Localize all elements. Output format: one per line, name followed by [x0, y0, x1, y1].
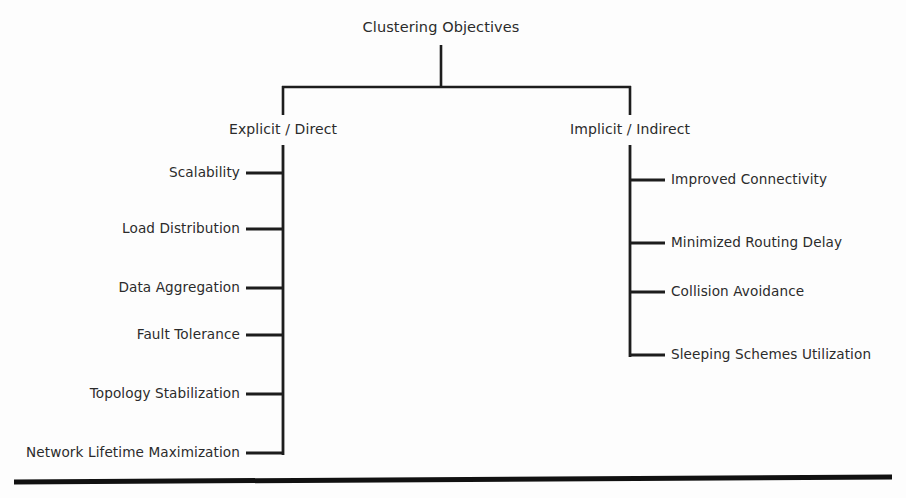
- leaf-label-scalability: Scalability: [0, 166, 240, 180]
- implicit-branch-lines: [629, 145, 665, 357]
- explicit-branch-lines: [246, 145, 284, 455]
- leaf-label-load-distribution: Load Distribution: [0, 222, 240, 236]
- leaf-label-minimized-routing-delay: Minimized Routing Delay: [671, 236, 842, 250]
- leaf-label-sleeping-schemes-utilization: Sleeping Schemes Utilization: [671, 348, 871, 362]
- leaf-label-collision-avoidance: Collision Avoidance: [671, 285, 804, 299]
- branch-label-implicit: Implicit / Indirect: [530, 122, 730, 136]
- leaf-label-network-lifetime-maximization: Network Lifetime Maximization: [0, 446, 240, 460]
- root-connector-group: [282, 45, 631, 115]
- clustering-objectives-diagram: Clustering Objectives Explicit / Direct …: [0, 0, 906, 498]
- root-node-label: Clustering Objectives: [0, 20, 882, 35]
- footer-horizontal-rule: [14, 477, 892, 482]
- leaf-label-fault-tolerance: Fault Tolerance: [0, 328, 240, 342]
- branch-label-explicit: Explicit / Direct: [183, 122, 383, 136]
- leaf-label-topology-stabilization: Topology Stabilization: [0, 387, 240, 401]
- leaf-label-data-aggregation: Data Aggregation: [0, 281, 240, 295]
- leaf-label-improved-connectivity: Improved Connectivity: [671, 173, 827, 187]
